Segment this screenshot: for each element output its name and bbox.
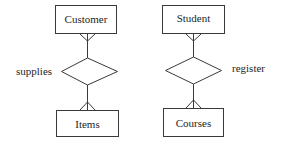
student-entity-label: Student xyxy=(177,12,211,24)
customer-entity[interactable]: Customer xyxy=(56,6,117,34)
er-diagram-canvas: Customer supplies Items Student register xyxy=(0,0,282,146)
supplies-relationship[interactable] xyxy=(62,58,118,85)
items-entity[interactable]: Items xyxy=(57,111,119,137)
courses-entity[interactable]: Courses xyxy=(164,109,224,137)
customer-entity-label: Customer xyxy=(65,13,108,25)
supplies-relationship-label: supplies xyxy=(16,65,52,77)
courses-entity-label: Courses xyxy=(176,117,211,129)
supplies-diamond xyxy=(62,58,118,85)
register-relationship[interactable] xyxy=(166,57,222,84)
register-relationship-label: register xyxy=(232,62,265,74)
items-entity-label: Items xyxy=(75,118,99,130)
student-entity[interactable]: Student xyxy=(163,6,225,34)
register-diamond xyxy=(166,57,222,84)
